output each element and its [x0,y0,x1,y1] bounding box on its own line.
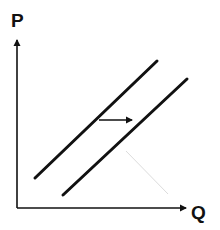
faint-diagonal-mark [126,151,168,194]
supply-shift-diagram: P Q [0,0,220,230]
y-axis-label: P [11,11,24,30]
supply-curve-original [35,61,157,178]
diagram-svg [0,0,220,230]
supply-curve-shifted [63,79,187,195]
x-axis-label: Q [191,203,206,222]
